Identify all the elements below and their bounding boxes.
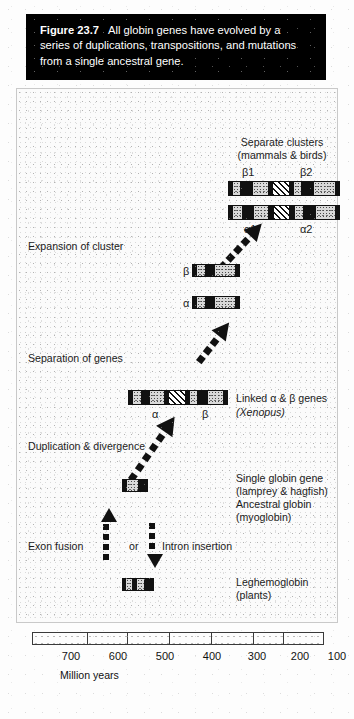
timeline-tick-label: 500 xyxy=(148,650,182,662)
exon-fusion-label: Exon fusion xyxy=(28,540,83,553)
ruler-tick xyxy=(127,633,128,644)
xenopus-alpha-label: α xyxy=(152,408,158,421)
beta1-label: β1 xyxy=(242,166,254,179)
timeline-tick-label: 600 xyxy=(101,650,135,662)
expansion-of-cluster-label: Expansion of cluster xyxy=(28,240,123,253)
gene-segment-exon xyxy=(205,297,215,308)
linked-genes-label: Linked α & β genes xyxy=(236,392,327,405)
figure-23-7: Figure 23.7All globin genes have evolved… xyxy=(0,0,354,719)
gene-segment-spacer xyxy=(295,206,303,219)
gene-segment-spacer xyxy=(215,297,235,308)
gene-segment-exon xyxy=(235,265,240,276)
gene-segment-exon xyxy=(240,182,253,195)
gene-segment-exon xyxy=(301,182,314,195)
gene-segment-exon xyxy=(242,206,254,219)
ruler-tick xyxy=(253,633,254,644)
timeline-axis-title: Million years xyxy=(60,669,119,681)
timeline-tick-label: 700 xyxy=(54,650,88,662)
timeline-tick-label: 200 xyxy=(283,650,317,662)
figure-caption-label: Figure 23.7 xyxy=(40,24,99,36)
ancestral-globin-label: Ancestral globin xyxy=(236,498,311,511)
gene-segment-pseudogene xyxy=(273,182,289,195)
gene-segment-spacer xyxy=(233,182,240,195)
gene-segment-spacer xyxy=(314,182,335,195)
timeline-ruler xyxy=(32,632,324,645)
single-globin-bar xyxy=(122,479,148,492)
gene-segment-spacer xyxy=(233,206,242,219)
gene-segment-pseudogene xyxy=(169,391,185,404)
gene-segment-exon xyxy=(235,297,240,308)
timeline-tick-label: 100 xyxy=(320,650,354,662)
leghemoglobin-bar xyxy=(122,578,154,591)
gene-segment-spacer xyxy=(208,391,223,404)
beta-cluster-bar xyxy=(228,181,340,196)
single-globin-gene-label: Single globin gene xyxy=(236,472,323,485)
gene-segment-spacer xyxy=(127,480,138,491)
gene-segment-spacer xyxy=(137,579,144,590)
linked-alpha-beta-bar xyxy=(128,390,228,405)
alpha-gene-bar xyxy=(192,296,240,309)
gene-segment-spacer xyxy=(254,206,268,219)
alpha-cluster-bar xyxy=(228,205,340,220)
ruler-tick xyxy=(87,633,88,644)
gene-segment-exon xyxy=(335,182,340,195)
gene-segment-spacer xyxy=(197,265,205,276)
separation-of-genes-label: Separation of genes xyxy=(28,352,123,365)
timeline-tick-label: 400 xyxy=(195,650,229,662)
alpha-label: α xyxy=(183,297,189,310)
leghemoglobin-organism: (plants) xyxy=(236,589,271,602)
linked-genes-organism: (Xenopus) xyxy=(236,406,285,419)
figure-caption: Figure 23.7All globin genes have evolved… xyxy=(26,14,326,80)
gene-segment-spacer xyxy=(294,182,301,195)
leghemoglobin-label: Leghemoglobin xyxy=(236,576,308,589)
gene-segment-exon xyxy=(144,579,154,590)
gene-segment-spacer xyxy=(133,391,141,404)
alpha2-label: α2 xyxy=(300,223,312,236)
ancestral-globin-organism: (myoglobin) xyxy=(236,511,291,524)
single-globin-organism: (lamprey & hagfish) xyxy=(236,485,328,498)
or-label: or xyxy=(129,540,138,553)
gene-segment-exon xyxy=(335,206,340,219)
beta2-label: β2 xyxy=(300,166,312,179)
xenopus-beta-label: β xyxy=(202,408,208,421)
gene-segment-exon xyxy=(141,391,150,404)
timeline-tick-label: 300 xyxy=(240,650,274,662)
intron-insertion-label: Intron insertion xyxy=(162,540,232,553)
beta-label: β xyxy=(183,265,189,278)
gene-segment-spacer xyxy=(316,206,335,219)
gene-segment-exon xyxy=(138,480,148,491)
gene-segment-spacer xyxy=(150,391,164,404)
ruler-tick xyxy=(169,633,170,644)
duplication-divergence-label: Duplication & divergence xyxy=(28,440,145,453)
gene-segment-spacer xyxy=(197,297,205,308)
gene-segment-spacer xyxy=(190,391,197,404)
gene-segment-exon xyxy=(223,391,228,404)
gene-segment-spacer xyxy=(253,182,268,195)
separate-clusters-label-line2: (mammals & birds) xyxy=(222,149,342,162)
separate-clusters-label-line1: Separate clusters xyxy=(222,136,342,149)
gene-segment-exon xyxy=(197,391,208,404)
ruler-tick xyxy=(283,633,284,644)
ruler-tick xyxy=(211,633,212,644)
gene-segment-exon xyxy=(205,265,215,276)
gene-segment-spacer xyxy=(215,265,235,276)
gene-segment-pseudogene xyxy=(274,206,289,219)
gene-segment-exon xyxy=(303,206,316,219)
beta-gene-bar xyxy=(192,264,240,277)
